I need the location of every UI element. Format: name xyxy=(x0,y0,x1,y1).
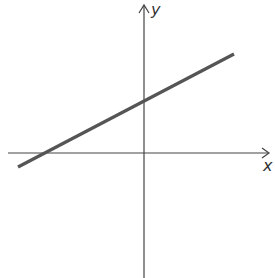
coordinate-graph: y x xyxy=(0,0,275,278)
y-axis xyxy=(139,5,149,278)
x-axis-label: x xyxy=(263,158,272,174)
function-line xyxy=(18,54,234,167)
graph-canvas xyxy=(0,0,275,278)
y-axis-label: y xyxy=(151,2,160,18)
